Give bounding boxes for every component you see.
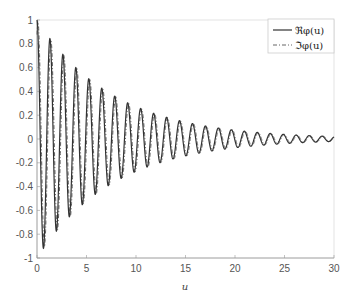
svg-text:20: 20	[229, 263, 241, 274]
svg-text:10: 10	[130, 263, 142, 274]
svg-text:0.8: 0.8	[19, 38, 33, 49]
legend-imag-label: ℑφ(u)	[295, 40, 323, 51]
legend-real-label: ℜφ(u)	[295, 25, 324, 36]
svg-text:-1: -1	[24, 253, 33, 264]
svg-text:0.6: 0.6	[19, 62, 33, 73]
svg-text:-0.2: -0.2	[16, 157, 34, 168]
svg-text:-0.6: -0.6	[16, 205, 34, 216]
line-chart: -1-0.8-0.6-0.4-0.200.20.40.60.81 0510152…	[0, 0, 356, 305]
svg-text:-0.4: -0.4	[16, 181, 34, 192]
svg-text:5: 5	[84, 263, 90, 274]
axes-box	[37, 20, 334, 258]
svg-text:0: 0	[27, 134, 33, 145]
y-axis-ticks: -1-0.8-0.6-0.4-0.200.20.40.60.81	[16, 15, 40, 264]
real-part-curve	[37, 20, 334, 248]
svg-text:-0.8: -0.8	[16, 229, 34, 240]
svg-text:30: 30	[328, 263, 340, 274]
svg-text:0.2: 0.2	[19, 110, 33, 121]
svg-text:25: 25	[279, 263, 291, 274]
svg-text:15: 15	[180, 263, 192, 274]
svg-text:0: 0	[34, 263, 40, 274]
plot-curves	[37, 20, 334, 248]
x-axis-label: u	[182, 281, 188, 292]
legend: ℜφ(u) ℑφ(u)	[268, 19, 334, 53]
imag-part-curve	[37, 22, 334, 247]
svg-text:0.4: 0.4	[19, 86, 33, 97]
svg-text:1: 1	[27, 15, 33, 26]
